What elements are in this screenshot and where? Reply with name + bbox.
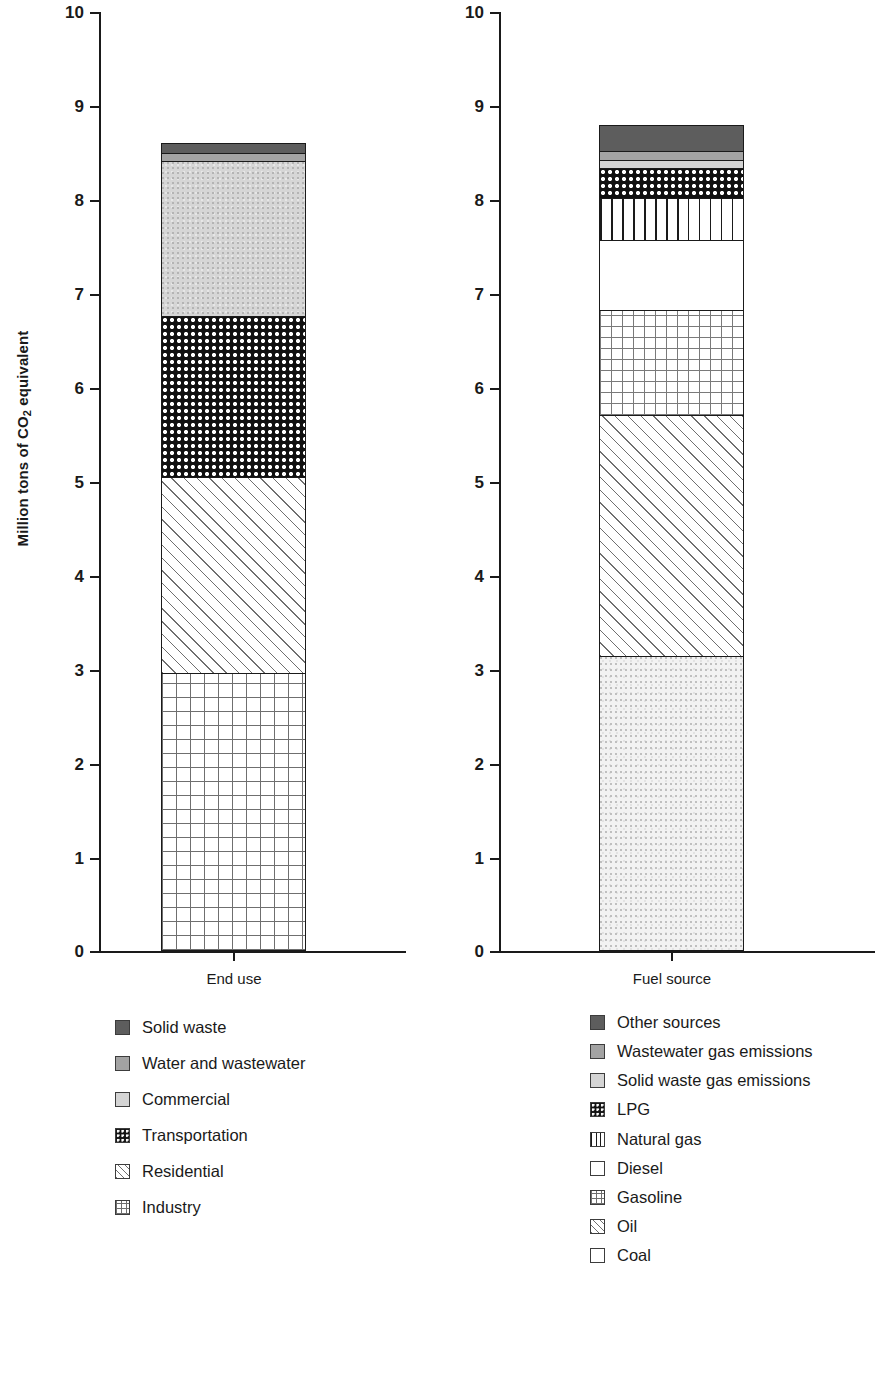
legend-swatch-wastewater-gas-emissions-icon xyxy=(590,1044,605,1059)
y-ticklabel-left-6: 6 xyxy=(44,380,84,397)
legend-item[interactable]: Solid waste xyxy=(115,1012,445,1042)
legend-item[interactable]: Transportation xyxy=(115,1120,445,1150)
legend-swatch-industry-icon xyxy=(115,1200,130,1215)
legend-item[interactable]: Wastewater gas emissions xyxy=(590,1041,880,1061)
y-ticklabel-left-8: 8 xyxy=(44,192,84,209)
legend-item[interactable]: Diesel xyxy=(590,1158,880,1178)
legend-swatch-transportation-icon xyxy=(115,1128,130,1143)
y-tick-left-3 xyxy=(90,670,100,672)
y-tick-left-0 xyxy=(90,951,100,953)
bar-segment-industry xyxy=(161,673,306,951)
legend-label: Diesel xyxy=(617,1158,663,1178)
y-ticklabel-right-10: 10 xyxy=(444,4,484,21)
y-ticklabel-left-10: 10 xyxy=(44,4,84,21)
legend-label: LPG xyxy=(617,1099,650,1119)
y-tick-left-4 xyxy=(90,576,100,578)
y-ticklabel-left-5: 5 xyxy=(44,474,84,491)
y-tick-right-6 xyxy=(490,388,500,390)
y-tick-right-9 xyxy=(490,106,500,108)
x-axis-label-fuel-source: Fuel source xyxy=(522,970,822,987)
y-ticklabel-left-7: 7 xyxy=(44,286,84,303)
y-ticklabel-left-2: 2 xyxy=(44,756,84,773)
bar-segment-residential xyxy=(161,477,306,673)
y-ticklabel-right-7: 7 xyxy=(444,286,484,303)
legend-label: Residential xyxy=(142,1161,224,1181)
legend-swatch-solid-waste-gas-emissions-icon xyxy=(590,1073,605,1088)
legend-item[interactable]: Other sources xyxy=(590,1012,880,1032)
legend-swatch-diesel-icon xyxy=(590,1161,605,1176)
y-tick-right-5 xyxy=(490,482,500,484)
legend-label: Oil xyxy=(617,1216,637,1236)
legend-swatch-other-sources-icon xyxy=(590,1015,605,1030)
bar-segment-coal xyxy=(599,656,744,951)
bar-segment-water-and-wastewater xyxy=(161,153,306,161)
y-tick-right-10 xyxy=(490,12,500,14)
x-axis-line-right xyxy=(499,951,875,953)
y-ticklabel-right-3: 3 xyxy=(444,662,484,679)
bar-segment-oil xyxy=(599,415,744,656)
y-tick-left-7 xyxy=(90,294,100,296)
legend-item[interactable]: Coal xyxy=(590,1245,880,1265)
legend-label: Solid waste gas emissions xyxy=(617,1070,811,1090)
legend-swatch-water-and-wastewater-icon xyxy=(115,1056,130,1071)
legend-label: Wastewater gas emissions xyxy=(617,1041,813,1061)
legend-fuel-source: Other sources Wastewater gas emissions S… xyxy=(590,1012,880,1274)
x-tick-end-use xyxy=(233,951,235,961)
legend-label: Coal xyxy=(617,1245,651,1265)
bar-segment-wastewater-gas-emissions xyxy=(599,151,744,160)
y-ticklabel-right-1: 1 xyxy=(444,850,484,867)
y-tick-right-8 xyxy=(490,200,500,202)
legend-item[interactable]: Residential xyxy=(115,1156,445,1186)
legend-item[interactable]: Solid waste gas emissions xyxy=(590,1070,880,1090)
legend-label: Other sources xyxy=(617,1012,721,1032)
legend-item[interactable]: Oil xyxy=(590,1216,880,1236)
y-ticklabel-right-2: 2 xyxy=(444,756,484,773)
y-tick-left-5 xyxy=(90,482,100,484)
legend-swatch-natural-gas-icon xyxy=(590,1132,605,1147)
y-ticklabel-left-4: 4 xyxy=(44,568,84,585)
y-axis-title-subscript: 2 xyxy=(21,410,33,416)
y-tick-left-10 xyxy=(90,12,100,14)
legend-swatch-oil-icon xyxy=(590,1219,605,1234)
legend-label: Transportation xyxy=(142,1125,248,1145)
bar-segment-natural-gas xyxy=(599,198,744,240)
legend-item[interactable]: Gasoline xyxy=(590,1187,880,1207)
bar-segment-solid-waste xyxy=(161,143,306,153)
bar-segment-commercial xyxy=(161,161,306,316)
x-tick-fuel-source xyxy=(671,951,673,961)
legend-swatch-coal-icon xyxy=(590,1248,605,1263)
y-ticklabel-left-3: 3 xyxy=(44,662,84,679)
y-tick-left-6 xyxy=(90,388,100,390)
x-axis-line-left xyxy=(99,951,406,953)
y-ticklabel-left-1: 1 xyxy=(44,850,84,867)
bar-segment-lpg xyxy=(599,168,744,198)
x-axis-label-end-use: End use xyxy=(84,970,384,987)
y-tick-right-0 xyxy=(490,951,500,953)
legend-swatch-residential-icon xyxy=(115,1164,130,1179)
bar-segment-other-sources xyxy=(599,125,744,151)
y-ticklabel-right-6: 6 xyxy=(444,380,484,397)
legend-label: Solid waste xyxy=(142,1017,226,1037)
y-tick-left-8 xyxy=(90,200,100,202)
bar-segment-transportation xyxy=(161,316,306,477)
legend-item[interactable]: Commercial xyxy=(115,1084,445,1114)
legend-swatch-solid-waste-icon xyxy=(115,1020,130,1035)
y-tick-left-1 xyxy=(90,858,100,860)
figure-stacked-bar-charts: Million tons of CO2 equivalent 10 9 8 7 … xyxy=(0,0,882,1380)
y-tick-left-2 xyxy=(90,764,100,766)
legend-item[interactable]: Water and wastewater xyxy=(115,1048,445,1078)
legend-swatch-gasoline-icon xyxy=(590,1190,605,1205)
y-ticklabel-left-9: 9 xyxy=(44,98,84,115)
legend-end-use: Solid waste Water and wastewater Commerc… xyxy=(115,1012,445,1228)
y-axis-title-pre: Million tons of CO xyxy=(14,416,31,546)
y-ticklabel-right-4: 4 xyxy=(444,568,484,585)
y-tick-right-4 xyxy=(490,576,500,578)
y-ticklabel-right-0: 0 xyxy=(444,943,484,960)
legend-item[interactable]: LPG xyxy=(590,1099,880,1119)
legend-item[interactable]: Natural gas xyxy=(590,1129,880,1149)
y-tick-right-3 xyxy=(490,670,500,672)
bar-segment-gasoline xyxy=(599,310,744,415)
legend-swatch-lpg-icon xyxy=(590,1102,605,1117)
bar-segment-diesel xyxy=(599,240,744,310)
legend-item[interactable]: Industry xyxy=(115,1192,445,1222)
